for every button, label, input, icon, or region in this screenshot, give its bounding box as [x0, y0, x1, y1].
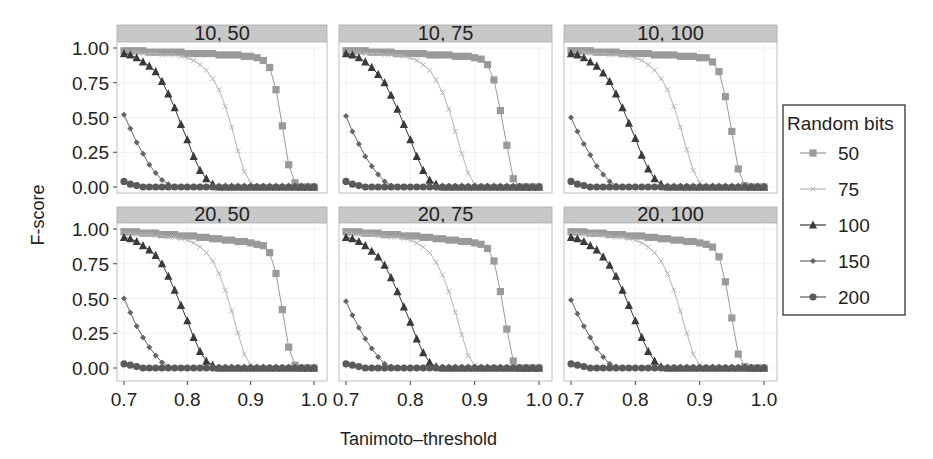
y-axes: 0.000.250.500.751.000.000.250.500.751.00 [72, 38, 117, 379]
facet-plot-area [564, 223, 777, 381]
facet-strip-label: 20, 50 [194, 203, 250, 225]
y-tick-label: 0.75 [72, 73, 109, 94]
legend-label: 50 [838, 143, 859, 164]
facet-plot-area [339, 223, 552, 381]
x-tick-label: 0.7 [111, 389, 137, 410]
facet-strip-label: 20, 100 [637, 203, 704, 225]
faceted-line-chart: 10, 5010, 7510, 10020, 5020, 7520, 100 0… [0, 0, 933, 459]
legend-label: 150 [838, 251, 870, 272]
y-tick-label: 0.50 [72, 108, 109, 129]
legend-label: 75 [838, 179, 859, 200]
x-axes: 0.70.80.91.00.70.80.91.00.70.80.91.0 [111, 381, 777, 410]
y-tick-label: 0.50 [72, 289, 109, 310]
y-tick-label: 0.00 [72, 177, 109, 198]
facet-plot-area [117, 223, 327, 381]
y-axis-title: F-score [28, 184, 48, 245]
x-tick-label: 0.9 [686, 389, 712, 410]
x-tick-label: 0.7 [558, 389, 584, 410]
facet-strip-label: 10, 100 [637, 22, 704, 44]
y-tick-label: 0.25 [72, 323, 109, 344]
facet-panel: 20, 100 [564, 203, 777, 381]
legend-box [783, 105, 905, 315]
facet-strip-label: 10, 75 [418, 22, 474, 44]
facet-panel: 10, 50 [117, 22, 327, 193]
y-tick-label: 0.00 [72, 358, 109, 379]
x-tick-label: 0.8 [174, 389, 200, 410]
legend: Random bits 5075100150200 [783, 105, 905, 315]
x-tick-label: 1.0 [751, 389, 777, 410]
y-tick-label: 1.00 [72, 38, 109, 59]
x-tick-label: 0.8 [622, 389, 648, 410]
x-tick-label: 1.0 [301, 389, 327, 410]
facet-panel: 10, 75 [339, 22, 552, 193]
facet-strip-label: 10, 50 [194, 22, 250, 44]
facet-panel: 20, 50 [117, 203, 327, 381]
x-tick-label: 0.9 [461, 389, 487, 410]
y-tick-label: 0.75 [72, 254, 109, 275]
x-tick-label: 1.0 [526, 389, 552, 410]
facet-panel: 10, 100 [564, 22, 777, 193]
y-tick-label: 0.25 [72, 142, 109, 163]
x-tick-label: 0.7 [333, 389, 359, 410]
x-tick-label: 0.9 [237, 389, 263, 410]
x-tick-label: 0.8 [397, 389, 423, 410]
panel-grid: 10, 5010, 7510, 10020, 5020, 7520, 100 [117, 22, 777, 381]
legend-title: Random bits [787, 113, 894, 134]
facet-strip-label: 20, 75 [418, 203, 474, 225]
facet-panel: 20, 75 [339, 203, 552, 381]
legend-label: 200 [838, 287, 870, 308]
legend-label: 100 [838, 215, 870, 236]
x-axis-title: Tanimoto–threshold [340, 429, 497, 449]
y-tick-label: 1.00 [72, 219, 109, 240]
